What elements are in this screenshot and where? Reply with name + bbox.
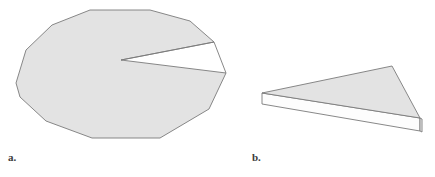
wedge-side-face [420, 118, 422, 132]
figure-label-b: b. [252, 152, 261, 163]
notched-polygon-body [16, 10, 226, 138]
figure-panel: a. b. [0, 0, 435, 177]
figure-a-group [16, 10, 226, 138]
figure-label-a: a. [8, 152, 16, 163]
figure-b-group [262, 66, 422, 132]
figure-illustration [0, 0, 435, 177]
